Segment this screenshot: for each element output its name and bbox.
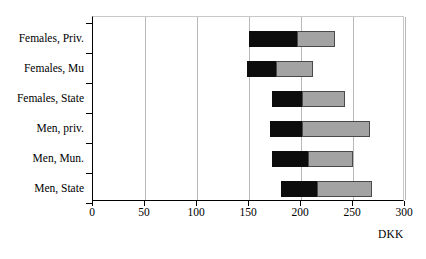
bar-segment-low	[270, 121, 302, 137]
bar-row	[93, 181, 403, 197]
bar-row	[93, 91, 403, 107]
bar-row	[93, 121, 403, 137]
bar-segment-high	[302, 121, 370, 137]
gridline-300	[405, 17, 406, 200]
bar-segment-low	[247, 61, 276, 77]
bar-segment-high	[317, 181, 372, 197]
bar-segment-high	[276, 61, 313, 77]
category-label: Females, Priv.	[0, 32, 88, 44]
bar-row	[93, 61, 403, 77]
bar-segment-low	[272, 91, 302, 107]
x-axis-tick-label: 150	[228, 206, 268, 219]
x-axis-tick-label: 300	[384, 206, 424, 219]
category-label: Men, priv.	[0, 122, 88, 134]
x-axis-tick-label: 100	[176, 206, 216, 219]
x-axis-tick-label: 200	[280, 206, 320, 219]
bar-segment-low	[281, 181, 316, 197]
bar-row	[93, 31, 403, 47]
bar-segment-low	[249, 31, 297, 47]
plot-area	[92, 16, 404, 201]
category-label: Men, State	[0, 182, 88, 194]
x-axis-tick-label: 0	[72, 206, 112, 219]
bar-segment-low	[272, 151, 308, 167]
bar-segment-high	[302, 91, 345, 107]
bar-chart: Females, Priv.Females, MuFemales, StateM…	[0, 0, 426, 259]
category-label: Men, Mun.	[0, 152, 88, 164]
bar-row	[93, 151, 403, 167]
y-axis-category-labels: Females, Priv.Females, MuFemales, StateM…	[0, 0, 88, 259]
x-axis-unit-label: DKK	[378, 228, 404, 240]
bar-segment-high	[297, 31, 335, 47]
bar-segment-high	[308, 151, 353, 167]
category-label: Females, State	[0, 92, 88, 104]
x-axis-tick-label: 250	[332, 206, 372, 219]
x-axis-tick-label: 50	[124, 206, 164, 219]
category-label: Females, Mu	[0, 62, 88, 74]
